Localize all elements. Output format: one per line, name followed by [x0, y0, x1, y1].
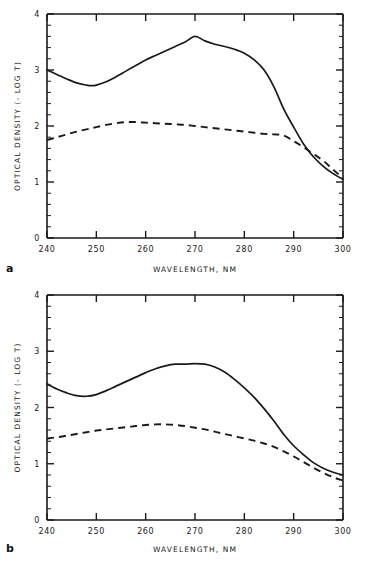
- y-tick-label: 1: [34, 460, 40, 469]
- chart-panel-a: 01234240250260270280290300OPTICAL DENSIT…: [0, 0, 369, 285]
- figure-panel-a: 01234240250260270280290300OPTICAL DENSIT…: [0, 0, 369, 285]
- curve-dashed: [47, 122, 343, 178]
- y-tick-label: 2: [34, 404, 40, 413]
- figure-panel-b: 01234240250260270280290300OPTICAL DENSIT…: [0, 285, 369, 567]
- x-tick-label: 270: [186, 527, 203, 536]
- y-tick-label: 0: [34, 516, 40, 525]
- x-tick-label: 290: [285, 527, 302, 536]
- curve-dashed: [47, 424, 343, 480]
- x-tick-label: 300: [334, 245, 351, 254]
- panel-label-b: b: [6, 542, 14, 555]
- x-tick-label: 280: [236, 245, 253, 254]
- y-tick-label: 3: [34, 66, 40, 75]
- x-tick-label: 300: [334, 527, 351, 536]
- x-tick-label: 290: [285, 245, 302, 254]
- plot-frame: [47, 295, 343, 520]
- y-tick-label: 1: [34, 178, 40, 187]
- x-tick-label: 250: [88, 245, 105, 254]
- curve-solid: [47, 36, 343, 179]
- x-tick-label: 280: [236, 527, 253, 536]
- y-tick-label: 0: [34, 234, 40, 243]
- y-tick-label: 4: [34, 10, 40, 19]
- x-tick-label: 260: [137, 245, 154, 254]
- x-axis-title-b: WAVELENGTH, NM: [47, 545, 343, 554]
- y-tick-label: 2: [34, 122, 40, 131]
- chart-panel-b: 01234240250260270280290300OPTICAL DENSIT…: [0, 285, 369, 567]
- y-tick-label: 3: [34, 347, 40, 356]
- y-axis-title: OPTICAL DENSITY (- LOG T): [13, 61, 22, 191]
- y-axis-title: OPTICAL DENSITY (- LOG T): [13, 343, 22, 473]
- x-tick-label: 240: [38, 245, 55, 254]
- x-tick-label: 270: [186, 245, 203, 254]
- x-tick-label: 250: [88, 527, 105, 536]
- x-tick-label: 240: [38, 527, 55, 536]
- panel-label-a: a: [6, 262, 13, 275]
- x-axis-title-a: WAVELENGTH, NM: [47, 265, 343, 274]
- x-tick-label: 260: [137, 527, 154, 536]
- y-tick-label: 4: [34, 291, 40, 300]
